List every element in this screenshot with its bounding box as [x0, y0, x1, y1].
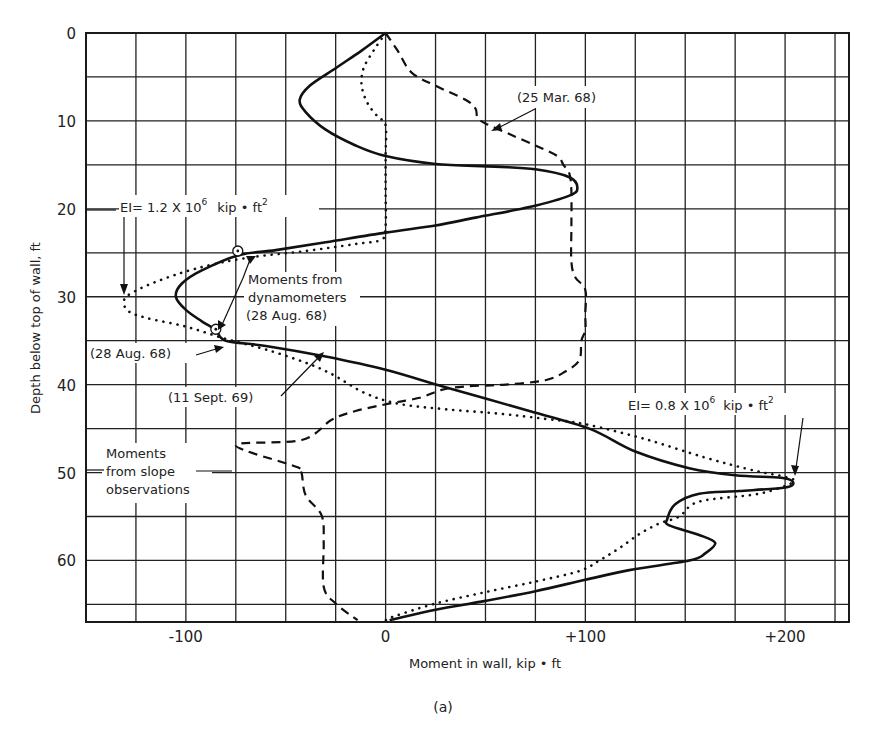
ei-0-8-main: EI= 0.8 X 10	[628, 398, 709, 413]
ei-1-2-exp: 6	[201, 197, 207, 207]
y-tick-label: 60	[57, 552, 76, 570]
y-axis-title: Depth below top of wall, ft	[28, 242, 43, 414]
marker-dot	[214, 328, 217, 331]
arrowhead-icon	[120, 284, 128, 295]
leader-ei-0-8	[796, 418, 803, 468]
x-tick-label: +100	[565, 628, 606, 646]
y-tick-label: 0	[66, 25, 76, 43]
y-tick-label: 50	[57, 465, 76, 483]
arrowhead-icon	[791, 465, 799, 476]
svg-text:EI= 0.8 X 106kip • ft2: EI= 0.8 X 106kip • ft2	[628, 395, 774, 413]
ei-0-8-unit: kip • ft	[723, 398, 768, 413]
x-axis-title: Moment in wall, kip • ft	[409, 656, 561, 671]
label-dyn-line2: dynamometers	[248, 290, 347, 305]
grid-lines	[86, 33, 849, 622]
label-dyn-line3: (28 Aug. 68)	[246, 308, 327, 323]
y-tick-labels: 0102030405060	[57, 25, 76, 570]
label-slope-line2: from slope	[106, 464, 175, 479]
leader-25-mar-68	[498, 109, 535, 128]
annotation-slope-observations: Moments from slope observations	[86, 443, 232, 503]
label-slope-line1: Moments	[106, 446, 166, 461]
annotation-25-mar-68: (25 Mar. 68)	[491, 86, 633, 131]
arrowhead-icon	[246, 256, 256, 264]
ei-1-2-unit: kip • ft	[217, 200, 262, 215]
label-25-mar-68: (25 Mar. 68)	[517, 90, 596, 105]
y-tick-label: 20	[57, 201, 76, 219]
marker-dot	[236, 250, 239, 253]
ei-1-2-unit-exp: 2	[262, 197, 268, 207]
y-tick-label: 40	[57, 377, 76, 395]
label-dyn-line1: Moments from	[248, 272, 342, 287]
label-11-sept-69: (11 Sept. 69)	[168, 390, 253, 405]
label-slope-line3: observations	[106, 482, 190, 497]
annotation-dynamometers: Moments from dynamometers (28 Aug. 68)	[218, 256, 360, 330]
y-tick-label: 10	[57, 113, 76, 131]
arrowhead-icon	[218, 320, 226, 330]
annotation-28-aug-68: (28 Aug. 68)	[88, 343, 224, 363]
x-tick-labels: -1000+100+200	[169, 628, 806, 646]
label-28-aug-68: (28 Aug. 68)	[90, 346, 171, 361]
x-tick-label: 0	[381, 628, 391, 646]
x-tick-label: -100	[169, 628, 203, 646]
ei-1-2-main: EI= 1.2 X 10	[120, 200, 201, 215]
figure-caption: (a)	[433, 699, 453, 715]
moment-depth-chart: 0102030405060 -1000+100+200 Moment in wa…	[0, 0, 873, 737]
ei-0-8-exp: 6	[709, 395, 715, 405]
x-tick-label: +200	[764, 628, 805, 646]
svg-text:EI= 1.2 X 106kip • ft2: EI= 1.2 X 106kip • ft2	[120, 197, 268, 215]
arrowhead-icon	[214, 345, 224, 353]
ei-0-8-unit-exp: 2	[768, 395, 774, 405]
y-tick-label: 30	[57, 289, 76, 307]
dynamometer-reading-1	[233, 246, 243, 256]
arrowhead-icon	[491, 123, 502, 131]
